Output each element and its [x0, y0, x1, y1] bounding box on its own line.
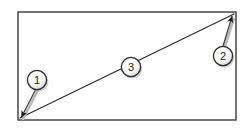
figure-container: 1 2 3 [0, 0, 251, 130]
callout-2-number: 2 [220, 50, 226, 62]
callout-3-number: 3 [128, 61, 134, 73]
callout-diagram: 1 2 3 [0, 0, 251, 130]
callout-1-number: 1 [34, 74, 40, 86]
